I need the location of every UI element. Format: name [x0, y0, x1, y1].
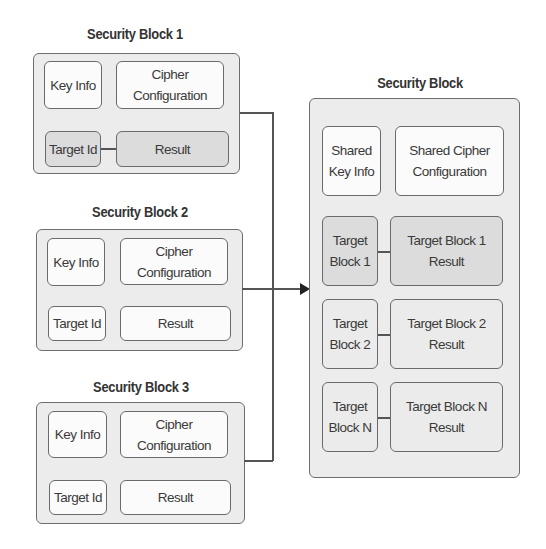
cipher-label-line2: Configuration — [137, 262, 211, 283]
key-info-box: Key Info — [48, 411, 107, 458]
key-info-label: Key Info — [50, 75, 96, 96]
result-line1: Target Block N — [406, 396, 487, 417]
target-id-label: Target Id — [53, 313, 101, 334]
target-label-line2: Block 2 — [330, 334, 371, 355]
result-line2: Result — [407, 334, 486, 355]
result-line1: Target Block 1 — [407, 230, 486, 251]
target-id-box: Target Id — [45, 131, 101, 167]
connector-line-block2 — [242, 288, 302, 290]
target-id-label: Target Id — [49, 139, 97, 160]
key-info-box: Key Info — [44, 61, 102, 109]
target-label-line1: Target — [328, 396, 371, 417]
result-box: Result — [120, 306, 231, 341]
cipher-label-line2: Configuration — [137, 435, 211, 456]
result-label: Result — [158, 313, 193, 334]
result-box: Result — [120, 480, 231, 515]
connector-line-block1 — [240, 112, 272, 114]
key-info-box: Key Info — [47, 238, 105, 286]
target-id-label: Target Id — [54, 487, 102, 508]
security-block-merged-title: Security Block — [360, 75, 480, 91]
shared-cipher-configuration-box: Shared CipherConfiguration — [395, 126, 504, 196]
shared-cipher-line2: Configuration — [409, 161, 490, 182]
target-label-line1: Target — [330, 313, 371, 334]
cipher-configuration-box: CipherConfiguration — [116, 61, 224, 109]
cipher-label-line1: Cipher — [133, 64, 207, 85]
target-block-1-box: TargetBlock 1 — [322, 216, 378, 286]
target-block-n-box: TargetBlock N — [322, 382, 378, 452]
cipher-label-line1: Cipher — [137, 241, 211, 262]
result-box: Result — [116, 131, 229, 167]
shared-key-line2: Key Info — [329, 161, 375, 182]
shared-cipher-line1: Shared Cipher — [409, 140, 490, 161]
target-label-line2: Block N — [328, 417, 371, 438]
target-id-box: Target Id — [48, 306, 106, 341]
security-block-1-title: Security Block 1 — [66, 26, 204, 42]
result-line2: Result — [406, 417, 487, 438]
key-info-label: Key Info — [55, 424, 101, 445]
target-id-box: Target Id — [49, 480, 107, 515]
cipher-label-line1: Cipher — [137, 414, 211, 435]
result-line2: Result — [407, 251, 486, 272]
key-info-label: Key Info — [53, 252, 99, 273]
result-label: Result — [158, 487, 193, 508]
security-block-3-title: Security Block 3 — [72, 379, 210, 395]
result-label: Result — [155, 139, 190, 160]
connector-line — [101, 148, 117, 150]
security-block-2-title: Security Block 2 — [71, 204, 209, 220]
result-line1: Target Block 2 — [407, 313, 486, 334]
shared-key-info-box: SharedKey Info — [322, 126, 381, 196]
target-label-line1: Target — [330, 230, 371, 251]
target-block-1-result-box: Target Block 1Result — [390, 216, 503, 286]
target-block-n-result-box: Target Block NResult — [390, 382, 503, 452]
target-block-2-box: TargetBlock 2 — [322, 299, 378, 369]
shared-key-line1: Shared — [329, 140, 375, 161]
connector-line-block3 — [244, 460, 273, 462]
target-label-line2: Block 1 — [330, 251, 371, 272]
cipher-configuration-box: CipherConfiguration — [120, 238, 228, 285]
cipher-label-line2: Configuration — [133, 85, 207, 106]
cipher-configuration-box: CipherConfiguration — [120, 411, 228, 458]
connector-line-vertical — [272, 112, 274, 461]
target-block-2-result-box: Target Block 2Result — [390, 299, 503, 369]
